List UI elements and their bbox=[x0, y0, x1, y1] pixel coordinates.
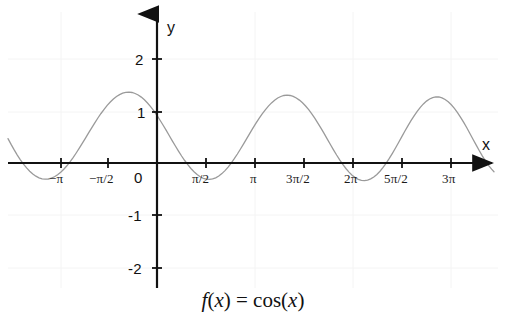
y-tick-label-0: 0 bbox=[134, 170, 143, 185]
figure-caption: f(x) = cos(x) bbox=[0, 290, 506, 311]
y-axis bbox=[152, 14, 162, 288]
caption-cos: cos bbox=[253, 288, 281, 312]
caption-equals: = bbox=[236, 288, 248, 312]
x-tick-label-3pi: 3π bbox=[442, 172, 455, 185]
x-tick-label-2pi: 2π bbox=[344, 172, 357, 185]
x-axis bbox=[8, 158, 492, 168]
x-tick-label-3pi-over-2: 3π/2 bbox=[286, 172, 310, 185]
x-tick-label-pi: π bbox=[250, 172, 257, 185]
caption-var-1: x bbox=[214, 288, 223, 312]
plot-canvas bbox=[0, 0, 506, 325]
y-tick-label-2: 2 bbox=[135, 52, 144, 67]
y-axis-name: y bbox=[167, 20, 175, 36]
caption-paren-close: ) bbox=[224, 288, 231, 312]
caption-paren-close-2: ) bbox=[297, 288, 304, 312]
cosine-curve bbox=[8, 92, 494, 180]
x-tick-label-5pi-over-2: 5π/2 bbox=[384, 172, 408, 185]
y-tick-label-neg-2: -2 bbox=[128, 261, 142, 276]
y-tick-label-1: 1 bbox=[137, 105, 146, 120]
x-tick-label-neg-pi: −π bbox=[49, 172, 63, 185]
x-tick-label-neg-pi-over-2: −π/2 bbox=[89, 172, 114, 185]
x-tick-label-pi-over-2: π/2 bbox=[192, 172, 209, 185]
cosine-function-figure: −π −π/2 π/2 π 3π/2 2π 5π/2 3π 2 1 0 -1 -… bbox=[0, 0, 506, 325]
ghost-gridlines bbox=[8, 12, 498, 288]
y-tick-label-neg-1: -1 bbox=[128, 208, 142, 223]
x-axis-name: x bbox=[482, 137, 490, 153]
